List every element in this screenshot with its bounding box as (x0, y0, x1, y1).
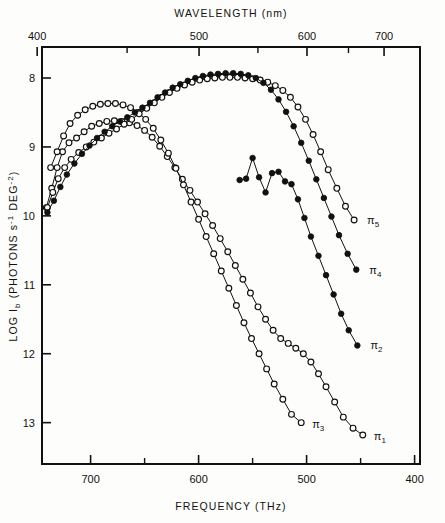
scientific-line-chart: WAVELENGTH (nm) FREQUENCY (THz) LOG Ib (… (0, 0, 445, 523)
data-point (109, 123, 115, 129)
data-point (45, 210, 51, 216)
data-point (97, 101, 103, 107)
data-point (334, 185, 340, 191)
data-point (177, 81, 183, 87)
data-point (283, 109, 289, 115)
data-point (82, 107, 88, 113)
data-point (276, 169, 282, 175)
data-point (143, 116, 149, 122)
data-point (346, 327, 352, 333)
data-point (263, 190, 269, 196)
data-point (332, 399, 338, 405)
data-point (147, 100, 153, 106)
data-point (79, 151, 85, 157)
data-point (323, 384, 329, 390)
data-point (270, 327, 276, 333)
data-point (338, 311, 344, 317)
data-point (293, 345, 299, 351)
left-tick-label: 8 (29, 72, 35, 84)
data-point (51, 198, 57, 204)
data-point (256, 174, 262, 180)
data-point (149, 134, 155, 140)
data-point (234, 303, 240, 309)
bottom-tick-label: 700 (81, 473, 99, 485)
data-point (158, 137, 164, 143)
data-point (128, 105, 134, 111)
top-axis-title: WAVELENGTH (nm) (174, 7, 287, 19)
y-title-sup2: -2 (6, 175, 15, 184)
data-point (50, 190, 56, 196)
data-point (54, 149, 60, 155)
data-point (111, 118, 117, 124)
y-title-mid: DEG (7, 185, 19, 215)
data-point (193, 75, 199, 81)
data-point (268, 87, 274, 93)
data-point (264, 366, 270, 372)
data-point (165, 150, 171, 156)
data-point (298, 420, 304, 426)
data-point (62, 165, 68, 171)
data-point (74, 135, 80, 141)
data-point (125, 115, 131, 121)
data-point (276, 97, 282, 103)
data-point (142, 127, 148, 133)
data-point (203, 234, 209, 240)
data-point (248, 290, 254, 296)
data-point (187, 187, 193, 193)
bottom-tick-label: 500 (297, 473, 315, 485)
left-tick-label: 13 (23, 417, 35, 429)
data-point (58, 184, 64, 190)
data-point (202, 211, 208, 217)
data-point (226, 285, 232, 291)
data-point (288, 94, 294, 100)
data-point (308, 359, 314, 365)
data-point (306, 158, 312, 164)
left-tick-label: 10 (23, 210, 35, 222)
data-point (223, 70, 229, 76)
left-tick-label: 9 (29, 141, 35, 153)
top-tick-label: 500 (190, 30, 208, 42)
bottom-tick-label: 400 (405, 473, 423, 485)
y-title-sup1: -1 (6, 215, 15, 224)
data-point (291, 123, 297, 129)
data-point (278, 336, 284, 342)
data-point (325, 167, 331, 173)
data-point (280, 396, 286, 402)
figure-container: WAVELENGTH (nm) FREQUENCY (THz) LOG Ib (… (0, 0, 445, 523)
data-point (102, 129, 108, 135)
data-point (316, 253, 322, 259)
bottom-tick-label: 600 (189, 473, 207, 485)
data-point (81, 129, 87, 135)
data-point (350, 425, 356, 431)
data-point (232, 263, 238, 269)
data-point (162, 90, 168, 96)
data-point (218, 268, 224, 274)
data-point (237, 177, 243, 183)
data-point (249, 336, 255, 342)
top-tick-label: 600 (298, 30, 316, 42)
data-point (295, 104, 301, 110)
top-tick-label: 700 (375, 30, 393, 42)
y-title-main: LOG I (7, 308, 19, 342)
data-point (195, 199, 201, 205)
y-title-end: ) (7, 171, 19, 176)
data-point (173, 165, 179, 171)
data-point (157, 143, 163, 149)
data-point (253, 75, 259, 81)
data-point (355, 343, 361, 349)
data-point (200, 73, 206, 79)
data-point (132, 110, 138, 116)
left-tick-label: 11 (24, 279, 35, 291)
data-point (314, 177, 320, 183)
data-point (94, 135, 100, 141)
data-point (329, 214, 335, 220)
data-point (336, 232, 342, 238)
data-point (117, 119, 123, 125)
data-point (241, 320, 247, 326)
data-point (240, 276, 246, 282)
data-point (269, 170, 275, 176)
top-tick-label: 400 (28, 30, 46, 42)
data-point (54, 165, 60, 171)
data-point (150, 125, 156, 131)
data-point (243, 176, 249, 182)
